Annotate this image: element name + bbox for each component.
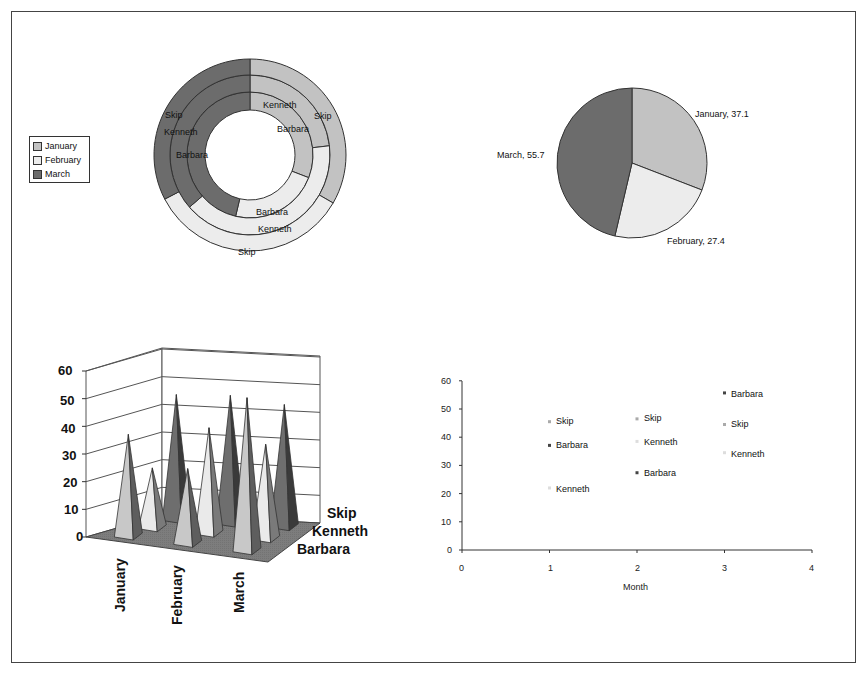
cone-ytick-50: 50 [60,393,74,408]
charts-canvas [0,0,868,678]
january-swatch-icon [33,142,42,151]
pie-label-january: January, 37.1 [695,109,749,119]
scatter-xtick-0: 0 [459,563,464,573]
pie-chart[interactable] [557,88,707,238]
scatter-chart[interactable] [459,381,812,553]
scatter-ytick-20: 20 [441,489,451,499]
march-swatch-icon [33,170,42,179]
doughnut-label-skip-jan: Skip [314,111,332,121]
scatter-point[interactable] [723,423,726,426]
scatter-ytick-50: 50 [441,404,451,414]
pie-label-february: February, 27.4 [667,236,725,246]
scatter-label-m1-kenneth: Kenneth [556,484,590,494]
february-swatch-icon [33,156,42,165]
scatter-ytick-0: 0 [447,545,452,555]
cone-series-kenneth: Kenneth [312,523,368,539]
doughnut-label-kenneth-jan: Kenneth [263,100,297,110]
scatter-point[interactable] [636,417,639,420]
scatter-point[interactable] [723,451,726,454]
doughnut-label-skip-feb: Skip [238,247,256,257]
cone-series-barbara: Barbara [297,541,350,557]
3d-cone-chart[interactable] [82,348,320,562]
scatter-point[interactable] [548,486,551,489]
doughnut-label-skip-mar: Skip [165,110,183,120]
scatter-point[interactable] [548,420,551,423]
cone-ytick-20: 20 [63,475,77,490]
scatter-label-m3-kenneth: Kenneth [731,449,765,459]
scatter-point[interactable] [636,471,639,474]
doughnut-label-barbara-mar: Barbara [176,150,208,160]
scatter-label-m2-kenneth: Kenneth [644,437,678,447]
doughnut-label-kenneth-mar: Kenneth [164,127,198,137]
legend-label: February [45,155,81,165]
scatter-point[interactable] [723,391,726,394]
legend-label: March [45,169,70,179]
cone-series-skip: Skip [327,505,357,521]
scatter-xtick-1: 1 [548,563,553,573]
cone-ytick-0: 0 [76,529,83,544]
legend-item-january[interactable]: January [33,139,89,153]
cone-xlabel-february: February [169,565,185,625]
doughnut-label-kenneth-feb: Kenneth [258,224,292,234]
scatter-xtick-3: 3 [722,563,727,573]
scatter-label-m1-barbara: Barbara [556,440,588,450]
scatter-point[interactable] [636,440,639,443]
scatter-label-m2-barbara: Barbara [644,468,676,478]
doughnut-label-barbara-feb: Barbara [256,207,288,217]
scatter-ytick-10: 10 [441,517,451,527]
pie-label-march: March, 55.7 [497,150,545,160]
cone-ytick-30: 30 [62,448,76,463]
scatter-label-m3-skip: Skip [731,419,749,429]
cone-ytick-40: 40 [61,421,75,436]
scatter-label-m1-skip: Skip [556,416,574,426]
cone-ytick-10: 10 [64,502,78,517]
legend-item-march[interactable]: March [33,167,89,181]
scatter-xtick-4: 4 [809,563,814,573]
scatter-ytick-30: 30 [441,460,451,470]
cone-ytick-60: 60 [58,363,72,378]
legend-item-february[interactable]: February [33,153,89,167]
scatter-label-m2-skip: Skip [644,413,662,423]
doughnut-label-barbara-jan: Barbara [277,124,309,134]
doughnut-legend: January February March [29,136,90,183]
cone-xlabel-march: March [231,572,247,613]
legend-label: January [45,141,77,151]
scatter-point[interactable] [548,444,551,447]
scatter-xlabel: Month [623,582,648,592]
scatter-xtick-2: 2 [635,563,640,573]
scatter-ytick-40: 40 [441,432,451,442]
scatter-label-m3-barbara: Barbara [731,389,763,399]
scatter-ytick-60: 60 [441,376,451,386]
cone-xlabel-january: January [112,558,128,612]
